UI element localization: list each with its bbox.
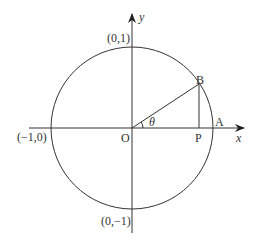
label-theta: θ: [149, 115, 155, 129]
label-point-P: P: [195, 131, 202, 145]
unit-circle-diagram: y x (0,1) (0,−1) (−1,0) O B P A θ: [0, 0, 257, 242]
y-axis-label: y: [138, 10, 145, 24]
label-left-intercept: (−1,0): [17, 130, 47, 144]
angle-arc: [141, 122, 143, 128]
label-point-B: B: [196, 73, 204, 87]
radius-OB: [132, 84, 199, 128]
label-top-intercept: (0,1): [107, 31, 130, 45]
label-origin: O: [121, 131, 130, 145]
label-bottom-intercept: (0,−1): [101, 214, 131, 228]
x-axis-label: x: [235, 131, 242, 145]
label-point-A: A: [215, 115, 224, 129]
